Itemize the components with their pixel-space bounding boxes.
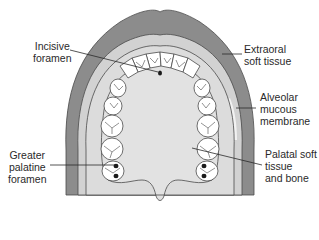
tooth-premolar — [110, 79, 126, 97]
label-line: membrane — [260, 115, 310, 127]
label-line: Incisive — [33, 40, 72, 52]
tooth-molar — [197, 138, 219, 160]
label-line: foramen — [33, 52, 72, 64]
tooth-premolar — [198, 97, 216, 115]
tooth-molar — [102, 161, 124, 181]
greater-palatine-foramen-left-1 — [114, 164, 119, 169]
label-line: Extraoral — [244, 43, 291, 55]
label-line: tissue — [265, 160, 317, 172]
tooth-premolar — [104, 97, 122, 115]
label-line: Greater — [8, 149, 47, 161]
label-line: soft tissue — [244, 55, 291, 67]
label-alveolar-mucous-membrane: Alveolar mucous membrane — [260, 91, 310, 127]
label-line: and bone — [265, 172, 317, 184]
tooth-molar — [101, 138, 123, 160]
tooth-molar — [196, 161, 218, 181]
label-line: mucous — [260, 103, 310, 115]
greater-palatine-foramen-right-1 — [202, 164, 207, 169]
label-line: palatine — [8, 161, 47, 173]
tooth-premolar — [194, 79, 210, 97]
label-line: Palatal soft — [265, 148, 317, 160]
greater-palatine-foramen-left-2 — [114, 174, 119, 179]
label-incisive-foramen: Incisive foramen — [33, 40, 72, 64]
label-greater-palatine-foramen: Greater palatine foramen — [8, 149, 47, 185]
label-extraoral-soft-tissue: Extraoral soft tissue — [244, 43, 291, 67]
label-line: foramen — [8, 173, 47, 185]
incisive-foramen-mark — [158, 70, 162, 75]
greater-palatine-foramen-right-2 — [202, 174, 207, 179]
label-palatal-soft-tissue: Palatal soft tissue and bone — [265, 148, 317, 184]
label-line: Alveolar — [260, 91, 310, 103]
